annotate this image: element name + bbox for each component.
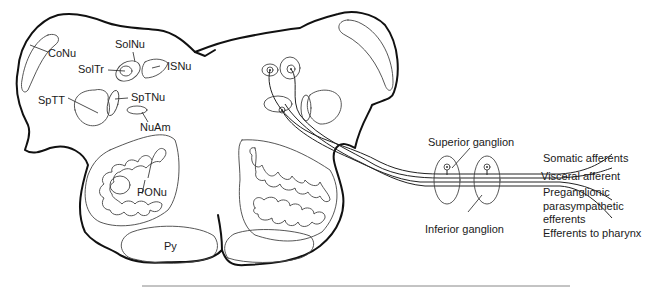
- medulla-diagram: CoNu SolNu SolTr ISNu SpTT SpTNu NuAm PO…: [0, 0, 652, 289]
- olive-hilum-left: [110, 176, 130, 194]
- inferior-ganglion: [474, 156, 500, 204]
- inferior-ganglion-cell-dot: [486, 166, 488, 168]
- ponu-right-upper: [250, 148, 330, 202]
- superior-ganglion-cell-dot: [446, 166, 448, 168]
- conu-right: [339, 20, 393, 90]
- label-parasympathetic: parasympathetic: [543, 200, 624, 212]
- label-superior-ganglion: Superior ganglion: [428, 136, 514, 148]
- label-somatic-afferents: Somatic afferents: [543, 152, 629, 164]
- label-isnu: ISNu: [167, 60, 191, 72]
- label-solnu: SolNu: [115, 38, 145, 50]
- label-visceral-afferent: Visceral afferent: [541, 170, 620, 182]
- label-ponu: PONu: [137, 186, 167, 198]
- conu-left: [21, 34, 58, 92]
- midline: [218, 215, 222, 250]
- ponu-left: [100, 148, 167, 215]
- sptt-left: [74, 89, 109, 125]
- label-nuam: NuAm: [140, 121, 171, 133]
- sptt-right: [307, 90, 341, 124]
- solnu-right: [280, 57, 300, 79]
- solnu-left: [112, 57, 144, 86]
- pyramid-right: [225, 230, 314, 263]
- label-py: Py: [164, 240, 177, 252]
- label-efferents-to-pharynx: Efferents to pharynx: [543, 227, 642, 239]
- label-preganglionic: Preganglionic: [543, 186, 610, 198]
- label-conu: CoNu: [48, 47, 76, 59]
- label-sptt: SpTT: [38, 94, 65, 106]
- label-inferior-ganglion: Inferior ganglion: [425, 223, 504, 235]
- label-sptnu: SpTNu: [131, 91, 165, 103]
- sptnu-right: [301, 95, 311, 121]
- ponu-right-lower: [253, 197, 325, 226]
- nuam-left: [127, 106, 147, 114]
- label-efferents: efferents: [543, 213, 586, 225]
- isnu-left: [142, 59, 168, 78]
- olive-region-left: [85, 135, 179, 226]
- label-soltr: SolTr: [78, 63, 104, 75]
